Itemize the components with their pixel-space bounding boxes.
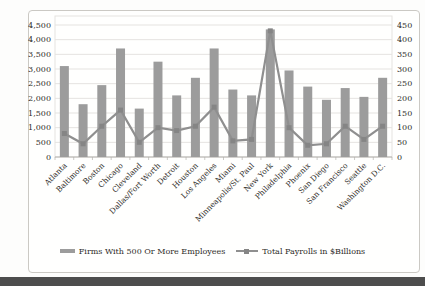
line-marker xyxy=(380,124,385,129)
left-axis-tick-label: 1,000 xyxy=(28,123,51,132)
bar xyxy=(210,48,219,157)
line-marker xyxy=(230,138,235,143)
left-axis-tick-label: 500 xyxy=(36,138,51,147)
line-marker xyxy=(361,137,366,142)
bar xyxy=(172,95,181,157)
line-marker xyxy=(249,137,254,142)
line-marker xyxy=(81,141,86,146)
bar xyxy=(228,90,237,157)
left-axis-tick-label: 3,000 xyxy=(28,65,51,74)
right-axis-tick-label: 450 xyxy=(397,21,412,30)
line-marker xyxy=(268,28,273,33)
screenshot-root: 05001,0001,5002,0002,5003,0003,5004,0004… xyxy=(0,0,425,286)
bar xyxy=(79,104,88,157)
bar xyxy=(341,88,350,157)
bar xyxy=(191,78,200,157)
left-axis-tick-label: 3,500 xyxy=(28,50,51,59)
right-axis-tick-label: 150 xyxy=(397,109,412,118)
legend-item-payrolls: Total Payrolls in $Billions xyxy=(236,247,365,256)
line-marker xyxy=(137,140,142,145)
right-axis-tick-label: 350 xyxy=(397,50,412,59)
line-marker xyxy=(155,125,160,130)
line-marker xyxy=(118,108,123,113)
left-axis-tick-label: 2,500 xyxy=(28,79,51,88)
legend-label-firms: Firms With 500 Or More Employees xyxy=(79,247,226,256)
line-marker xyxy=(287,125,292,130)
bar xyxy=(60,66,69,157)
left-axis-tick-label: 4,500 xyxy=(28,21,51,30)
line-marker xyxy=(324,141,329,146)
right-axis-tick-label: 250 xyxy=(397,79,412,88)
legend-label-payrolls: Total Payrolls in $Billions xyxy=(262,247,365,256)
left-axis-tick-label: 0 xyxy=(46,153,51,162)
line-marker xyxy=(62,131,67,136)
left-axis-tick-label: 1,500 xyxy=(28,109,51,118)
line-marker xyxy=(305,143,310,148)
right-axis-tick-label: 300 xyxy=(397,65,412,74)
bar xyxy=(135,109,144,157)
legend-item-firms: Firms With 500 Or More Employees xyxy=(60,247,226,256)
bar xyxy=(153,62,162,157)
bottom-dark-band xyxy=(0,277,425,286)
line-series-swatch xyxy=(236,248,258,255)
left-axis-tick-label: 2,000 xyxy=(28,94,51,103)
line-marker xyxy=(174,128,179,133)
bar-series-swatch xyxy=(60,249,75,253)
bar xyxy=(378,78,387,157)
right-axis-tick-label: 400 xyxy=(397,35,412,44)
right-axis-tick-label: 200 xyxy=(397,94,412,103)
right-axis-tick-label: 100 xyxy=(397,123,412,132)
chart-legend: Firms With 500 Or More Employees Total P… xyxy=(0,243,425,259)
line-marker xyxy=(193,124,198,129)
right-axis-tick-label: 50 xyxy=(397,138,407,147)
line-marker xyxy=(343,124,348,129)
right-axis-tick-label: 0 xyxy=(397,153,402,162)
bar xyxy=(322,100,331,157)
bar xyxy=(116,48,125,157)
line-marker xyxy=(99,124,104,129)
bar xyxy=(359,97,368,157)
left-axis-tick-label: 4,000 xyxy=(28,35,51,44)
bar xyxy=(97,85,106,157)
line-marker xyxy=(212,105,217,110)
